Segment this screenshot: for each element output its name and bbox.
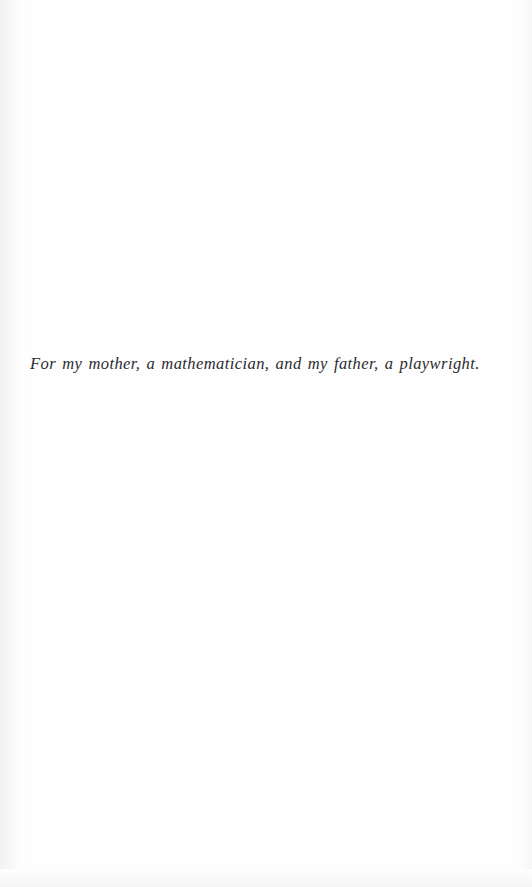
- dedication-text: For my mother, a mathematician, and my f…: [30, 353, 470, 375]
- dedication-block: For my mother, a mathematician, and my f…: [30, 353, 470, 375]
- scanned-book-page: For my mother, a mathematician, and my f…: [0, 0, 532, 887]
- page-left-gutter-shadow: [0, 0, 26, 887]
- page-bottom-edge-shadow: [0, 869, 532, 887]
- page-right-edge-shadow: [518, 0, 532, 887]
